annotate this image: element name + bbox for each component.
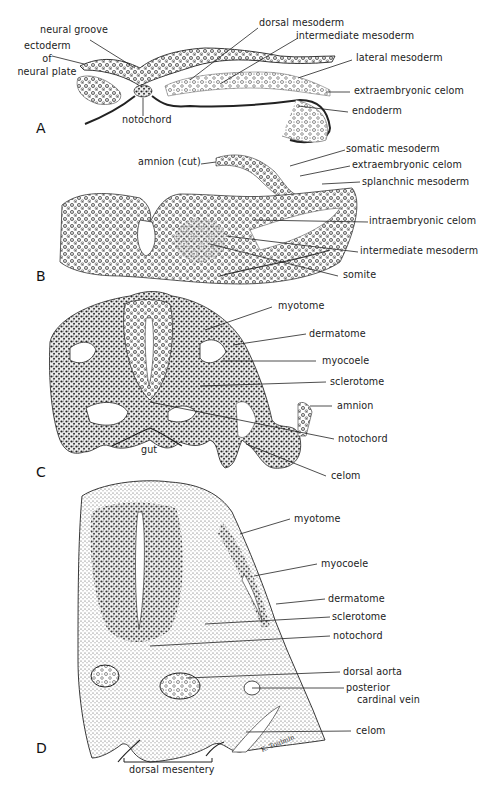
label-endoderm-a: endoderm: [352, 105, 402, 116]
label-amnion-c: amnion: [337, 400, 374, 411]
label-lateral-mesoderm-a: lateral mesoderm: [356, 52, 443, 63]
label-intermediate-mesoderm-a: intermediate mesoderm: [296, 30, 414, 41]
panel-letter-c: C: [36, 464, 46, 480]
label-intermediate-mesoderm-b: intermediate mesoderm: [360, 245, 478, 256]
label-dermatome-c: dermatome: [309, 328, 366, 339]
panel-c-drawing: [49, 292, 312, 469]
panel-b-drawing: [60, 155, 357, 284]
label-intraembryonic-celom: intraembryonic celom: [369, 215, 476, 226]
label-amnion-cut: amnion (cut): [138, 156, 201, 167]
label-somatic-mesoderm: somatic mesoderm: [346, 143, 440, 154]
label-dorsal-mesoderm-a: dorsal mesoderm: [259, 17, 344, 28]
label-myotome-d: myotome: [294, 513, 340, 524]
label-neural-groove: neural groove: [40, 24, 108, 35]
label-ectoderm-line1: ectoderm: [24, 40, 70, 51]
label-splanchnic-mesoderm: splanchnic mesoderm: [362, 176, 469, 187]
label-sclerotome-d: sclerotome: [332, 611, 386, 622]
label-myocoele-c: myocoele: [322, 355, 369, 366]
label-somite: somite: [343, 269, 376, 280]
panel-letter-d: D: [36, 740, 47, 756]
label-celom-d: celom: [356, 725, 386, 736]
label-myocoele-d: myocoele: [321, 558, 368, 569]
label-gut: gut: [141, 444, 157, 455]
panel-letter-a: A: [36, 120, 46, 136]
label-posterior-cardinal-vein-line2: cardinal vein: [357, 694, 420, 705]
label-myotome-c: myotome: [278, 300, 324, 311]
label-celom-c: celom: [331, 470, 361, 481]
label-notochord-c: notochord: [338, 433, 388, 444]
label-extraembryonic-celom-b: extraembryonic celom: [352, 159, 462, 170]
panel-d-drawing: [78, 481, 325, 762]
label-notochord-d: notochord: [333, 630, 383, 641]
panel-a-drawing: [77, 48, 335, 142]
label-extraembryonic-celom-a: extraembryonic celom: [354, 85, 464, 96]
label-ectoderm-line3: neural plate: [14, 66, 80, 77]
embryo-cross-section-illustrations: K. Toulmin: [0, 0, 485, 792]
label-dermatome-d: dermatome: [328, 593, 385, 604]
label-notochord-a: notochord: [122, 114, 172, 125]
panel-letter-b: B: [36, 268, 46, 284]
label-sclerotome-c: sclerotome: [330, 376, 384, 387]
label-dorsal-mesentery: dorsal mesentery: [129, 764, 215, 775]
label-dorsal-aorta: dorsal aorta: [343, 666, 402, 677]
label-ectoderm-line2: of: [24, 53, 70, 64]
label-posterior-cardinal-vein-line1: posterior: [346, 682, 390, 693]
